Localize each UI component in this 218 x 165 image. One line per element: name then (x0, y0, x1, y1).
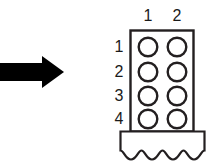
row-header-1: 1 (111, 39, 127, 55)
row-header-2: 2 (111, 64, 127, 80)
pin-hole-r2-c2 (168, 63, 187, 82)
pin-hole-r3-c1 (139, 87, 158, 106)
pin-hole-r1-c1 (139, 38, 158, 57)
connector-diagram (0, 0, 218, 165)
pin-hole-r3-c2 (168, 87, 187, 106)
pin-hole-r4-c2 (168, 110, 187, 129)
pin-hole-r2-c1 (139, 63, 158, 82)
column-header-1: 1 (140, 8, 156, 24)
row-header-3: 3 (111, 88, 127, 104)
connector-base (121, 132, 205, 160)
figure-canvas: 1 2 1 2 3 4 (0, 0, 218, 165)
arrow-shape (0, 56, 64, 88)
pin-hole-r1-c2 (168, 38, 187, 57)
right-arrow-icon (0, 56, 64, 88)
row-header-4: 4 (111, 111, 127, 127)
pin-hole-r4-c1 (139, 110, 158, 129)
column-header-2: 2 (169, 8, 185, 24)
